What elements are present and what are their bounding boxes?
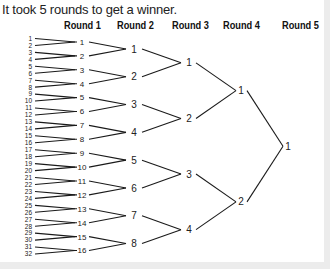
entrant-label: 32	[25, 250, 33, 257]
bracket-connector-line	[35, 70, 75, 73]
bracket-connector-line	[142, 216, 181, 230]
entrant-label: 15	[25, 132, 33, 139]
bracket-connector-line	[89, 98, 126, 105]
bracket-connector-line	[196, 91, 236, 119]
entrant-label: 14	[25, 125, 33, 132]
bracket-connector-line	[89, 70, 126, 77]
bracket-connector-line	[35, 125, 75, 128]
bracket-connector-line	[35, 150, 75, 153]
bracket-connector-line	[35, 195, 75, 198]
bracket-connector-line	[142, 63, 181, 77]
bracket-connector-line	[142, 160, 181, 174]
round-1-winner-label: 5	[80, 93, 85, 102]
bracket-connector-line	[35, 108, 75, 111]
round-1-winner-label: 8	[80, 135, 85, 144]
bracket-connector-line	[142, 174, 181, 188]
round-1-winner-label: 16	[78, 246, 87, 255]
entrant-label: 2	[28, 42, 32, 49]
bracket-connector-line	[247, 146, 283, 202]
entrant-label: 6	[28, 70, 32, 77]
tournament-bracket: 1234567891011121314151617181920212223242…	[0, 0, 330, 269]
entrant-label: 16	[25, 139, 33, 146]
bracket-connector-line	[89, 181, 126, 188]
bracket-connector-line	[35, 56, 75, 59]
round-2-winner-label: 8	[131, 238, 137, 249]
bracket-connector-line	[35, 181, 75, 184]
bracket-connector-line	[89, 209, 126, 216]
entrant-label: 24	[25, 195, 33, 202]
entrant-label: 4	[28, 56, 32, 63]
entrant-label: 1	[28, 35, 32, 42]
bracket-connector-line	[35, 111, 75, 114]
bracket-connector-line	[89, 105, 126, 112]
bracket-connector-line	[89, 125, 126, 132]
entrant-label: 27	[25, 216, 33, 223]
round-2-winner-label: 7	[131, 210, 137, 221]
round-1-winner-label: 2	[80, 52, 85, 61]
bracket-connector-line	[35, 52, 75, 55]
bracket-connector-line	[89, 216, 126, 223]
bracket-connector-line	[35, 223, 75, 226]
entrant-label: 5	[28, 63, 32, 70]
entrant-label: 28	[25, 223, 33, 230]
bracket-connector-line	[89, 188, 126, 195]
round-2-winner-label: 3	[131, 99, 137, 110]
entrant-label: 10	[25, 97, 33, 104]
bracket-connector-line	[35, 178, 75, 181]
entrant-label: 17	[25, 146, 33, 153]
round-3-winner-label: 3	[186, 169, 192, 180]
bracket-connector-line	[89, 49, 126, 56]
entrant-label: 9	[28, 90, 32, 97]
entrant-label: 22	[25, 181, 33, 188]
round-1-winner-label: 6	[80, 107, 85, 116]
bracket-connector-line	[89, 244, 126, 251]
round-1-winner-label: 9	[80, 149, 85, 158]
bracket-connector-line	[35, 205, 75, 208]
round-4-winner-label: 2	[238, 196, 244, 207]
bracket-connector-line	[35, 167, 75, 170]
bracket-connector-line	[142, 230, 181, 244]
entrant-label: 11	[25, 104, 32, 111]
bracket-connector-line	[35, 80, 75, 83]
round-1-winner-label: 10	[78, 163, 87, 172]
bracket-connector-line	[89, 237, 126, 244]
bracket-connector-line	[35, 219, 75, 222]
round-1-winner-label: 7	[80, 121, 85, 130]
bracket-connector-line	[89, 132, 126, 139]
bracket-connector-line	[35, 84, 75, 87]
bracket-connector-line	[35, 191, 75, 194]
entrant-label: 3	[28, 49, 32, 56]
bracket-connector-line	[89, 77, 126, 84]
bracket-connector-line	[142, 49, 181, 63]
bracket-connector-line	[247, 91, 283, 147]
entrant-label: 8	[28, 84, 32, 91]
round-2-winner-label: 1	[131, 44, 137, 55]
entrant-label: 29	[25, 229, 33, 236]
bracket-connector-line	[35, 237, 75, 240]
entrant-label: 30	[25, 236, 33, 243]
entrant-label: 19	[25, 160, 33, 167]
bracket-connector-line	[89, 160, 126, 167]
round-1-winner-label: 3	[80, 66, 85, 75]
bracket-connector-line	[35, 233, 75, 236]
entrant-label: 12	[25, 111, 33, 118]
entrant-label: 13	[25, 118, 33, 125]
bracket-connector-line	[35, 98, 75, 101]
bracket-connector-line	[35, 136, 75, 139]
round-3-winner-label: 2	[186, 113, 192, 124]
bracket-connector-line	[196, 174, 236, 202]
bracket-connector-line	[142, 105, 181, 119]
entrant-label: 25	[25, 202, 33, 209]
bracket-connector-line	[35, 122, 75, 125]
bracket-connector-line	[35, 39, 75, 42]
round-1-winner-label: 11	[78, 177, 87, 186]
round-1-winner-label: 12	[78, 191, 87, 200]
bracket-connector-line	[35, 153, 75, 156]
entrant-label: 21	[25, 174, 33, 181]
round-4-winner-label: 1	[238, 85, 244, 96]
bracket-connector-line	[196, 63, 236, 91]
entrant-label: 20	[25, 167, 33, 174]
entrant-label: 26	[25, 209, 33, 216]
bracket-connector-line	[89, 42, 126, 49]
round-1-winner-label: 15	[78, 233, 87, 242]
